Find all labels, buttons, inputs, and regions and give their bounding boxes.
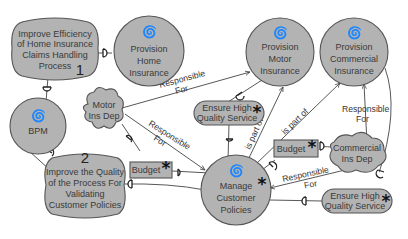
actor-swirl-icon: 🌀 [347,25,362,40]
svg-text:BPM: BPM [28,126,48,136]
dependency-icon [320,142,324,150]
dependency-icon [43,87,51,91]
diagram-svg: ResponsibleFor ResponsibleFor is part of… [0,0,408,239]
label-responsible-for: ResponsibleFor [142,118,193,160]
edge-manage-quality2[interactable] [270,200,322,201]
resource-budget-1[interactable]: Budget * [130,158,172,178]
svg-text:Budget: Budget [277,144,306,154]
agent-commercial-ins-dep[interactable]: CommercialIns Dep [330,132,386,172]
svg-text:ProvisionCommercialInsurance: ProvisionCommercialInsurance [330,42,378,76]
star-marker: * [162,158,171,178]
dependency-icon [376,170,384,178]
dependency-icon [126,136,132,142]
dependency-icon [178,169,180,176]
resource-budget-2[interactable]: Budget * [274,137,318,157]
agent-motor-ins-dep[interactable]: MotorIns Dep [83,87,123,128]
goal-ensure-quality-1[interactable]: Ensure HighQuality Service * [194,101,264,125]
actor-manage-customer-policies[interactable]: 🌀 ManageCustomerPolicies * [201,155,271,225]
actor-provision-motor[interactable]: 🌀 ProvisionMotorInsurance [246,18,314,86]
softgoal-improve-claims[interactable]: Improve Efficiencyof Home InsuranceClaim… [12,18,99,80]
actor-provision-home[interactable]: 🌀 ProvisionHomeInsurance [114,16,184,86]
goal-model-diagram: ResponsibleFor ResponsibleFor is part of… [0,0,408,239]
priority-number: 1 [76,61,84,78]
actor-swirl-icon: 🌀 [31,108,46,123]
edge-quality1-motor[interactable] [228,80,262,102]
dependency-icon [128,180,132,188]
svg-text:Ensure HighQuality Service: Ensure HighQuality Service [325,191,386,211]
actor-swirl-icon: 🌀 [142,24,157,39]
svg-text:Ensure HighQuality Service: Ensure HighQuality Service [197,103,258,123]
label-is-part-of: is part of [279,106,310,137]
actor-swirl-icon: 🌀 [229,163,244,178]
star-marker: * [253,102,262,122]
edge-quality1-manage[interactable] [228,124,229,160]
edge-validate-manage[interactable] [120,184,205,190]
dependency-icon [302,197,306,205]
svg-text:Budget: Budget [132,165,161,175]
softgoal-improve-validation[interactable]: 2 Improve the Qualityof the Process ForV… [45,149,125,218]
label-responsible-for: ResponsibleFor [281,164,332,194]
svg-text:ManageCustomerPolicies: ManageCustomerPolicies [216,181,255,215]
label-responsible-for: ResponsibleFor [342,104,390,124]
dependency-icon [269,162,277,170]
goal-ensure-quality-2[interactable]: Ensure HighQuality Service * [322,189,392,213]
star-marker: * [258,174,267,194]
dependency-icon [226,139,233,141]
dependency-icon [236,92,244,100]
actor-swirl-icon: 🌀 [273,25,288,40]
star-marker: * [382,191,391,211]
dependency-icon [103,49,107,57]
priority-number: 2 [81,149,89,166]
actor-bpm[interactable]: 🌀 BPM [10,98,66,154]
actor-provision-commercial[interactable]: 🌀 ProvisionCommercialInsurance [320,18,388,86]
star-marker: * [308,137,317,157]
svg-text:MotorIns Dep: MotorIns Dep [88,100,119,121]
